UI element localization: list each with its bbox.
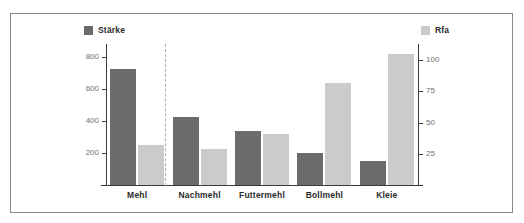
- legend-swatch-light-icon: [421, 26, 430, 35]
- legend-swatch-dark-icon: [84, 26, 93, 35]
- y-axis-right-tick-label: 100: [426, 55, 456, 64]
- y-axis-right-tick-label: 50: [426, 118, 456, 127]
- y-axis-left-tick: [102, 57, 106, 58]
- y-axis-left-tick: [102, 121, 106, 122]
- y-axis-left-tick-label: 600: [73, 84, 99, 93]
- bar-starke-bollmehl: [297, 153, 323, 185]
- legend-label-starke: Stärke: [98, 25, 125, 35]
- bar-starke-futtermehl: [235, 131, 261, 185]
- y-axis-left-tick: [102, 89, 106, 90]
- y-axis-right-tick: [419, 60, 423, 61]
- y-axis-right-tick-label: 75: [426, 86, 456, 95]
- x-axis-label-nachmehl: Nachmehl: [168, 190, 230, 200]
- y-axis-right-tick-label: 25: [426, 149, 456, 158]
- bar-rfa-bollmehl: [325, 83, 351, 185]
- chart-figure: Stärke Rfa 200400600800255075100 MehlNac…: [0, 0, 524, 223]
- bar-starke-kleie: [360, 161, 386, 185]
- y-axis-right-tick: [419, 123, 423, 124]
- bar-rfa-mehl: [138, 145, 164, 185]
- x-axis-label-mehl: Mehl: [106, 190, 168, 200]
- y-axis-left-tick-label: 400: [73, 116, 99, 125]
- x-axis-label-futtermehl: Futtermehl: [231, 190, 293, 200]
- legend-label-rfa: Rfa: [435, 25, 449, 35]
- y-axis-right-tick: [419, 91, 423, 92]
- plot-area: [106, 44, 418, 185]
- legend-item-starke: Stärke: [84, 25, 125, 35]
- bar-rfa-nachmehl: [201, 149, 227, 185]
- y-axis-left-tick-label: 800: [73, 52, 99, 61]
- y-axis-right-tick: [419, 154, 423, 155]
- bar-rfa-futtermehl: [263, 134, 289, 185]
- x-axis-label-bollmehl: Bollmehl: [293, 190, 355, 200]
- y-axis-left-tick: [102, 153, 106, 154]
- bar-starke-mehl: [110, 69, 136, 185]
- x-axis-label-kleie: Kleie: [356, 190, 418, 200]
- bar-starke-nachmehl: [173, 117, 199, 185]
- y-axis-left-tick-label: 200: [73, 148, 99, 157]
- y-axis-right-line: [418, 44, 419, 186]
- x-axis-line: [101, 185, 423, 186]
- legend-item-rfa: Rfa: [421, 25, 449, 35]
- bar-rfa-kleie: [388, 54, 414, 185]
